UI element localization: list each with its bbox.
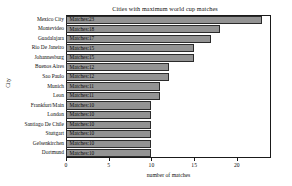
bar: Matches:15 xyxy=(66,54,194,62)
bar: Matches:10 xyxy=(66,111,151,119)
category-tick-label: Guadalajara xyxy=(0,36,64,41)
category-tick-label: Santiago De Chile xyxy=(0,122,64,127)
bar-value-label: Matches:11 xyxy=(67,84,94,89)
x-tick-mark xyxy=(66,158,67,161)
x-axis-label: number of matches xyxy=(66,172,271,178)
category-tick-label: Leon xyxy=(0,93,64,98)
bar: Matches:11 xyxy=(66,92,160,100)
bar: Matches:10 xyxy=(66,130,151,138)
bar-value-label: Matches:12 xyxy=(67,65,94,70)
category-tick-label: Rio De Janeiro xyxy=(0,45,64,50)
bar: Matches:23 xyxy=(66,16,262,24)
x-tick-label: 20 xyxy=(225,162,249,168)
bar-value-label: Matches:10 xyxy=(67,103,94,108)
x-tick-mark xyxy=(109,158,110,161)
x-tick-label: 10 xyxy=(139,162,163,168)
category-tick-label: Munich xyxy=(0,84,64,89)
bar: Matches:18 xyxy=(66,25,220,33)
x-tick-label: 5 xyxy=(97,162,121,168)
bar-value-label: Matches:17 xyxy=(67,36,94,41)
category-tick-label: Gelsenkirchen xyxy=(0,141,64,146)
bar: Matches:10 xyxy=(66,140,151,148)
x-tick-mark xyxy=(151,158,152,161)
bar-value-label: Matches:18 xyxy=(67,27,94,32)
bar-value-label: Matches:11 xyxy=(67,93,94,98)
x-tick-label: 0 xyxy=(54,162,78,168)
category-tick-label: Stuttgart xyxy=(0,131,64,136)
bar: Matches:10 xyxy=(66,149,151,157)
bar: Matches:12 xyxy=(66,73,169,81)
bar: Matches:15 xyxy=(66,44,194,52)
bar-value-label: Matches:15 xyxy=(67,55,94,60)
bar: Matches:11 xyxy=(66,82,160,90)
category-tick-label: Dortmund xyxy=(0,150,64,155)
bar-value-label: Matches:10 xyxy=(67,131,94,136)
chart-title: Cities with maximum world cup matches xyxy=(60,5,270,12)
bar: Matches:10 xyxy=(66,101,151,109)
bar-value-label: Matches:10 xyxy=(67,141,94,146)
category-tick-label: Montevideo xyxy=(0,26,64,31)
category-tick-label: Frankfurt/Main xyxy=(0,103,64,108)
bar-value-label: Matches:10 xyxy=(67,151,94,156)
category-tick-label: Johannesburg xyxy=(0,55,64,60)
bar: Matches:17 xyxy=(66,35,211,43)
category-tick-label: Buenos Aires xyxy=(0,64,64,69)
x-tick-label: 15 xyxy=(182,162,206,168)
x-tick-mark xyxy=(194,158,195,161)
bar: Matches:10 xyxy=(66,121,151,129)
category-tick-label: London xyxy=(0,112,64,117)
x-tick-mark xyxy=(237,158,238,161)
bar-chart: Cities with maximum world cup matches Ci… xyxy=(0,0,292,186)
bar-value-label: Matches:12 xyxy=(67,74,94,79)
bar-value-label: Matches:23 xyxy=(67,17,94,22)
category-tick-label: Mexico City xyxy=(0,17,64,22)
category-tick-label: Sao Paulo xyxy=(0,74,64,79)
bar: Matches:12 xyxy=(66,63,169,71)
bar-value-label: Matches:10 xyxy=(67,112,94,117)
bar-value-label: Matches:10 xyxy=(67,122,94,127)
bar-value-label: Matches:15 xyxy=(67,46,94,51)
